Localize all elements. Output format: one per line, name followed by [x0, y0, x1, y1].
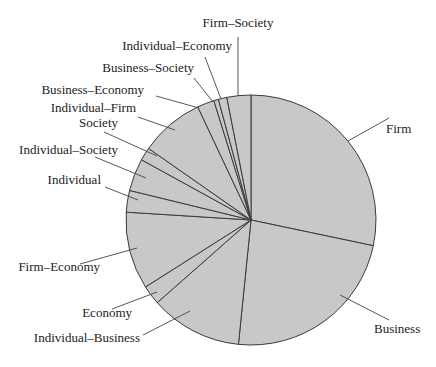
- callout-line-individual-economy: [205, 57, 221, 99]
- slice-label-economy: Economy: [82, 305, 132, 320]
- callout-line-business-economy: [156, 96, 199, 108]
- slice-label-business: Business: [374, 321, 420, 336]
- slice-label-individual: Individual: [48, 172, 102, 187]
- slice-label-individual-firm: Individual–Firm: [51, 100, 136, 115]
- slice-label-individual-business: Individual–Business: [34, 330, 140, 345]
- slice-label-firm-economy: Firm–Economy: [18, 259, 100, 274]
- pie-chart-svg: FirmBusinessIndividual–BusinessEconomyFi…: [0, 0, 436, 367]
- slice-label-firm-society: Firm–Society: [203, 15, 274, 30]
- pie-slices: [126, 95, 376, 345]
- callout-line-individual-firm: [138, 117, 175, 130]
- callout-line-business-society: [194, 78, 213, 102]
- slice-label-individual-society: Individual–Society: [19, 142, 118, 157]
- slice-label-business-society: Business–Society: [102, 60, 194, 75]
- slice-label-business-economy: Business–Economy: [41, 82, 144, 97]
- pie-slice-firm: [251, 95, 376, 246]
- callout-line-business: [340, 295, 389, 320]
- slice-label-society: Society: [79, 115, 118, 130]
- callout-line-firm: [348, 118, 389, 141]
- slice-label-individual-economy: Individual–Economy: [122, 38, 232, 53]
- pie-chart: FirmBusinessIndividual–BusinessEconomyFi…: [0, 0, 436, 367]
- slice-label-firm: Firm: [386, 121, 411, 136]
